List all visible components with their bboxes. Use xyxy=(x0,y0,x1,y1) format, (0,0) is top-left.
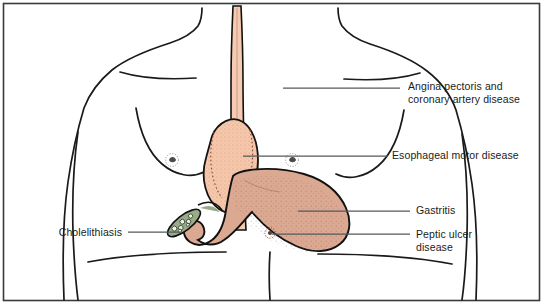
label-angina: Angina pectoris and coronary artery dise… xyxy=(408,80,520,106)
label-esophageal-motor: Esophageal motor disease xyxy=(392,149,519,162)
label-cholelithiasis: Cholelithiasis xyxy=(59,226,122,239)
label-peptic-ulcer: Peptic ulcer disease xyxy=(416,228,472,254)
label-gastritis: Gastritis xyxy=(416,204,455,217)
anatomy-figure: Angina pectoris and coronary artery dise… xyxy=(0,0,543,304)
